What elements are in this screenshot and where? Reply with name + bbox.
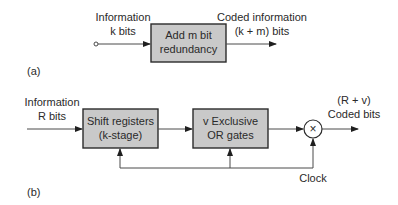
- clock-label: Clock: [299, 172, 327, 184]
- b-output-label-line2: Coded bits: [328, 108, 381, 120]
- b-input-label-line1: Information: [24, 96, 79, 108]
- block-diagram: Information k bits Add m bit redundancy …: [0, 0, 398, 205]
- multiplier-symbol: ×: [309, 122, 316, 136]
- xor-gates-line1: v Exclusive: [203, 115, 258, 127]
- shift-registers-line2: (k-stage): [99, 129, 142, 141]
- diagram-a: Information k bits Add m bit redundancy …: [27, 11, 307, 77]
- panel-label-b: (b): [27, 186, 40, 198]
- b-output-label-line1: (R + v): [337, 94, 370, 106]
- xor-gates-line2: OR gates: [207, 129, 254, 141]
- shift-registers-line1: Shift registers: [87, 115, 155, 127]
- panel-label-a: (a): [27, 65, 40, 77]
- a-output-label-line2: (k + m) bits: [235, 25, 290, 37]
- a-input-label-line1: Information: [95, 11, 150, 23]
- diagram-b: Information R bits Shift registers (k-st…: [24, 94, 380, 198]
- add-redundancy-line2: redundancy: [160, 43, 218, 55]
- input-terminal-icon: [94, 42, 98, 46]
- a-output-label-line1: Coded information: [217, 11, 307, 23]
- a-input-label-line2: k bits: [110, 25, 136, 37]
- b-input-label-line2: R bits: [38, 110, 67, 122]
- add-redundancy-line1: Add m bit: [165, 29, 211, 41]
